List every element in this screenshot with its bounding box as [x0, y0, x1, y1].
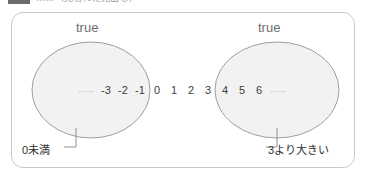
number-cell: 5	[234, 84, 251, 96]
cut-off-block-icon	[8, 0, 30, 4]
number-cell: -3	[98, 84, 115, 96]
number-cell: 2	[183, 84, 200, 96]
number-cell: 3	[200, 84, 217, 96]
number-cell: 1	[166, 84, 183, 96]
number-cell: 0	[149, 84, 166, 96]
number-cell: 4	[217, 84, 234, 96]
number-line: …… -3 -2 -1 0 1 2 3 4 5 6 ……	[0, 82, 365, 98]
top-cutoff-strip: ……（見切れた見出し）	[0, 0, 365, 5]
trailing-ellipsis: ……	[268, 85, 290, 94]
right-callout-label: 3より大きい	[268, 141, 329, 157]
number-cell: 6	[251, 84, 268, 96]
cut-off-heading-text: ……（見切れた見出し）	[36, 0, 138, 4]
number-cell: -1	[132, 84, 149, 96]
left-true-label: true	[76, 20, 98, 35]
number-cell: -2	[115, 84, 132, 96]
left-callout-label: 0未満	[22, 141, 50, 157]
leading-ellipsis: ……	[76, 85, 98, 94]
right-true-label: true	[258, 20, 280, 35]
